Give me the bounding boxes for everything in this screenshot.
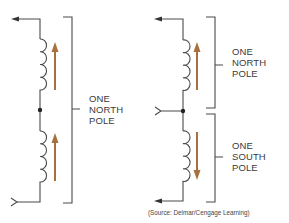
pole-wiring-diagram bbox=[0, 0, 289, 223]
upper-bracket-icon bbox=[206, 17, 223, 108]
flux-arrow-down-icon bbox=[194, 132, 201, 180]
right-flux-arrows bbox=[194, 42, 201, 180]
left-pole-label: ONE NORTH POLE bbox=[89, 93, 123, 126]
lower-coil-icon bbox=[160, 131, 190, 201]
lower-bracket-icon bbox=[206, 114, 223, 202]
right-upper-pole-label: ONE NORTH POLE bbox=[232, 46, 266, 79]
bottom-lead-input-icon bbox=[11, 198, 17, 206]
flux-arrow-up-icon bbox=[194, 42, 201, 90]
right-lower-pole-label: ONE SOUTH POLE bbox=[232, 140, 266, 173]
flux-arrow-up-icon bbox=[52, 133, 59, 181]
left-circuit bbox=[11, 17, 80, 207]
bracket-icon bbox=[63, 17, 80, 203]
center-tap-input-icon bbox=[155, 107, 183, 115]
upper-coil-icon bbox=[183, 40, 190, 131]
left-flux-arrows bbox=[52, 42, 59, 181]
right-circuit bbox=[154, 17, 223, 204]
junction-dot-icon bbox=[181, 109, 185, 113]
lower-coil-icon bbox=[17, 131, 47, 202]
flux-arrow-up-icon bbox=[52, 42, 59, 90]
top-lead-arrow-icon bbox=[154, 17, 183, 41]
top-lead-arrow-icon bbox=[11, 17, 40, 40]
source-credit: (Source: Delmar/Cengage Learning) bbox=[148, 209, 250, 216]
junction-dot-icon bbox=[38, 108, 42, 112]
upper-coil-icon bbox=[40, 39, 47, 131]
bottom-lead-arrow-icon bbox=[154, 199, 162, 204]
